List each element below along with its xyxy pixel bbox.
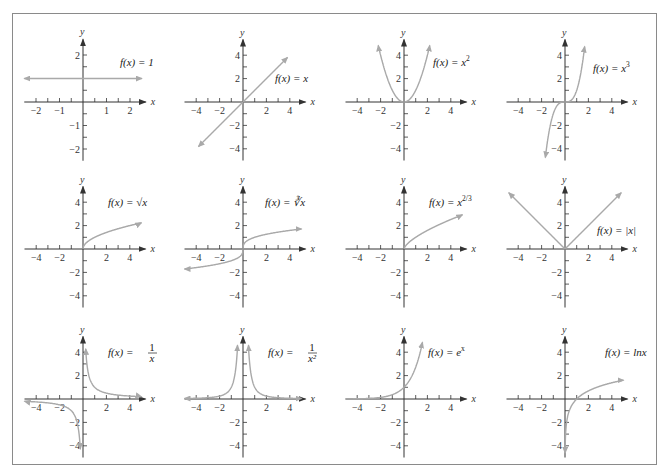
x-tick-label: −4 bbox=[191, 402, 202, 413]
x-tick-label: −2 bbox=[54, 252, 65, 263]
x-tick-label: 2 bbox=[586, 252, 591, 263]
curve-sqrt bbox=[83, 223, 142, 249]
y-tick-label: −4 bbox=[69, 440, 80, 451]
y-axis-label: y bbox=[400, 27, 406, 38]
x-tick-label: −4 bbox=[352, 402, 363, 413]
x-tick-label: 4 bbox=[287, 105, 292, 116]
graph-two-thirds: −4−224−4−224xyf(x) = x2/3 bbox=[346, 174, 477, 308]
y-tick-label: −2 bbox=[69, 144, 80, 155]
svg-text:f(x) = lnx: f(x) = lnx bbox=[605, 346, 647, 359]
y-axis-label: y bbox=[239, 174, 245, 185]
svg-text:f(x) =: f(x) = bbox=[108, 346, 133, 359]
x-tick-label: −4 bbox=[513, 105, 524, 116]
y-tick-label: 2 bbox=[235, 73, 240, 84]
y-tick-label: 4 bbox=[557, 50, 562, 61]
y-tick-label: −2 bbox=[551, 267, 562, 278]
x-tick-label: 4 bbox=[448, 402, 453, 413]
function-label: f(x) = |x| bbox=[597, 224, 636, 237]
graph-abs: −4−224−4−224xyf(x) = |x| bbox=[507, 174, 638, 308]
y-tick-label: −2 bbox=[69, 267, 80, 278]
x-tick-label: 2 bbox=[586, 105, 591, 116]
y-tick-label: 4 bbox=[75, 197, 80, 208]
y-tick-label: −2 bbox=[551, 417, 562, 428]
x-tick-label: 4 bbox=[609, 252, 614, 263]
y-tick-label: 2 bbox=[235, 220, 240, 231]
y-tick-label: 4 bbox=[396, 347, 401, 358]
svg-text:f(x) = |x|: f(x) = |x| bbox=[597, 224, 636, 237]
svg-text:f(x) = √x: f(x) = √x bbox=[108, 196, 147, 209]
curve-exp bbox=[346, 342, 423, 399]
svg-text:f(x) = ∛x: f(x) = ∛x bbox=[265, 195, 305, 209]
x-tick-label: 4 bbox=[127, 402, 132, 413]
y-tick-label: 2 bbox=[557, 73, 562, 84]
function-label: f(x) = 1x bbox=[108, 341, 157, 364]
graph-reciprocal: −4−224−4−224xyf(x) = 1x bbox=[25, 324, 158, 458]
x-tick-label: −4 bbox=[191, 105, 202, 116]
y-tick-label: −2 bbox=[229, 417, 240, 428]
x-tick-label: 2 bbox=[128, 105, 133, 116]
x-tick-label: −4 bbox=[513, 402, 524, 413]
function-label: f(x) = x2/3 bbox=[429, 194, 472, 209]
svg-text:x: x bbox=[149, 352, 155, 364]
svg-text:f(x) = 1: f(x) = 1 bbox=[120, 56, 154, 69]
y-axis-label: y bbox=[239, 324, 245, 335]
x-tick-label: −4 bbox=[352, 252, 363, 263]
y-axis-label: y bbox=[79, 26, 85, 37]
y-axis-label: y bbox=[79, 174, 85, 185]
y-axis-label: y bbox=[239, 27, 245, 38]
y-tick-label: 2 bbox=[557, 370, 562, 381]
y-tick-label: −1 bbox=[69, 120, 80, 131]
svg-text:f(x) = ex: f(x) = ex bbox=[428, 344, 465, 359]
y-tick-label: 4 bbox=[396, 197, 401, 208]
y-tick-label: −4 bbox=[229, 440, 240, 451]
x-axis-label: x bbox=[471, 96, 477, 107]
x-axis-label: x bbox=[310, 243, 316, 254]
y-axis-label: y bbox=[400, 174, 406, 185]
graph-exp: −4−224−4−224xyf(x) = ex bbox=[346, 324, 477, 458]
x-axis-label: x bbox=[632, 96, 638, 107]
y-tick-label: −2 bbox=[390, 267, 401, 278]
y-tick-label: −4 bbox=[390, 440, 401, 451]
y-tick-label: 2 bbox=[75, 370, 80, 381]
function-graphs-grid: −2−112−2−12xyf(x) = 1−4−224−4−224xyf(x) … bbox=[0, 0, 671, 475]
y-axis-label: y bbox=[561, 324, 567, 335]
function-label: f(x) = 1 bbox=[120, 56, 154, 69]
x-axis-label: x bbox=[471, 243, 477, 254]
svg-text:f(x) = x: f(x) = x bbox=[275, 72, 308, 85]
x-tick-label: −2 bbox=[214, 252, 225, 263]
curve-two-thirds bbox=[404, 215, 463, 249]
y-tick-label: 2 bbox=[75, 220, 80, 231]
x-tick-label: −1 bbox=[54, 105, 65, 116]
x-tick-label: 2 bbox=[586, 402, 591, 413]
x-tick-label: −4 bbox=[352, 105, 363, 116]
x-tick-label: −2 bbox=[375, 402, 386, 413]
x-tick-label: 4 bbox=[448, 105, 453, 116]
y-tick-label: −2 bbox=[551, 120, 562, 131]
graph-identity: −4−224−4−224xyf(x) = x bbox=[185, 27, 316, 161]
x-tick-label: 2 bbox=[104, 402, 109, 413]
curve-inverse-square bbox=[185, 345, 238, 398]
y-tick-label: 2 bbox=[396, 73, 401, 84]
y-axis-label: y bbox=[561, 27, 567, 38]
x-tick-label: −2 bbox=[214, 402, 225, 413]
svg-text:f(x) = x2: f(x) = x2 bbox=[433, 54, 470, 69]
y-tick-label: −4 bbox=[551, 290, 562, 301]
x-axis-label: x bbox=[150, 393, 156, 404]
y-axis-label: y bbox=[400, 324, 406, 335]
x-tick-label: 1 bbox=[104, 105, 109, 116]
function-label: f(x) = x2 bbox=[433, 54, 470, 69]
y-tick-label: −4 bbox=[69, 290, 80, 301]
x-tick-label: 2 bbox=[425, 105, 430, 116]
function-label: f(x) = x bbox=[275, 72, 308, 85]
graph-inverse-square: −4−224−2−4xyf(x) = 1x² bbox=[185, 324, 318, 458]
x-tick-label: 2 bbox=[425, 402, 430, 413]
x-tick-label: −4 bbox=[31, 402, 42, 413]
x-tick-label: −4 bbox=[191, 252, 202, 263]
function-label: f(x) = lnx bbox=[605, 346, 647, 359]
curve-ln bbox=[565, 380, 623, 453]
x-tick-label: −2 bbox=[214, 105, 225, 116]
y-tick-label: −4 bbox=[229, 290, 240, 301]
y-tick-label: 4 bbox=[235, 50, 240, 61]
y-tick-label: −2 bbox=[229, 120, 240, 131]
y-tick-label: 4 bbox=[557, 197, 562, 208]
